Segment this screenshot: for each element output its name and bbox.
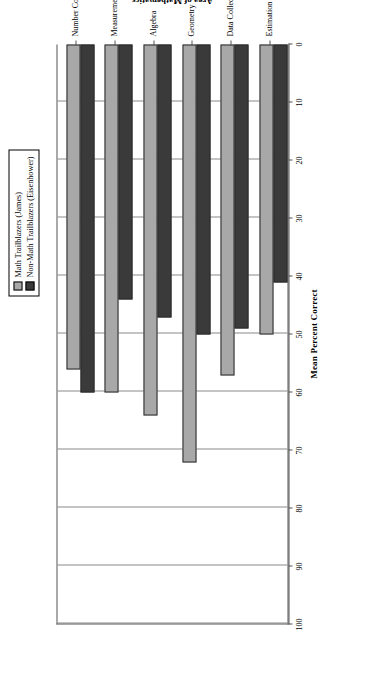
bar-1 <box>80 44 94 392</box>
value-axis-tick-label: 30 <box>294 214 303 222</box>
bar-1 <box>196 44 210 334</box>
value-axis-tick-label: 60 <box>294 388 303 396</box>
legend-item: Math Trailblazers (James) <box>13 156 22 290</box>
value-axis-tick-label: 40 <box>294 272 303 280</box>
value-axis-tick <box>288 43 292 44</box>
bar-1 <box>157 44 171 317</box>
legend-item: Non-Math Trailblazers (Eisenhower) <box>25 156 34 290</box>
legend-label-non-math-trailblazers: Non-Math Trailblazers (Eisenhower) <box>25 156 34 277</box>
value-axis-tick <box>288 333 292 334</box>
bar-0 <box>182 44 196 462</box>
value-axis-tick <box>288 623 292 624</box>
value-axis-tick-label: 90 <box>294 562 303 570</box>
value-axis-tick-label: 80 <box>294 504 303 512</box>
category-axis-title: Area of Mathematics <box>132 0 213 5</box>
value-axis-tick <box>288 565 292 566</box>
bar-group <box>134 44 173 623</box>
category-axis-tick <box>153 40 154 45</box>
category-axis-tick <box>75 40 76 45</box>
value-axis-tick-label: 70 <box>294 446 303 454</box>
bar-group <box>212 44 251 623</box>
bar-0 <box>66 44 80 369</box>
chart-figure: Math Trailblazers (James) Non-Math Trail… <box>0 0 375 684</box>
bar-series-container <box>57 44 287 623</box>
bar-0 <box>220 44 234 375</box>
value-axis-title: Mean Percent Correct <box>308 43 318 624</box>
value-axis-tick-label: 50 <box>294 330 303 338</box>
value-axis-tick <box>288 159 292 160</box>
value-axis-tick <box>288 449 292 450</box>
value-axis-tick-label: 100 <box>294 618 303 630</box>
legend-label-math-trailblazers: Math Trailblazers (James) <box>13 192 22 278</box>
chart-legend: Math Trailblazers (James) Non-Math Trail… <box>8 149 39 296</box>
chart-rotated-canvas: Math Trailblazers (James) Non-Math Trail… <box>0 0 375 684</box>
legend-swatch-non-math-trailblazers <box>25 281 34 290</box>
category-axis-tick <box>269 40 270 45</box>
bar-0 <box>143 44 157 415</box>
category-axis-tick <box>191 40 192 45</box>
value-axis-tick-label: 10 <box>294 98 303 106</box>
bar-1 <box>118 44 132 299</box>
bar-0 <box>259 44 273 334</box>
value-axis-tick <box>288 507 292 508</box>
value-axis-tick <box>288 217 292 218</box>
value-axis-tick <box>288 391 292 392</box>
value-axis-tick <box>288 275 292 276</box>
value-axis-tick <box>288 101 292 102</box>
bar-group <box>57 44 96 623</box>
bar-1 <box>234 44 248 328</box>
category-axis-tick <box>230 40 231 45</box>
bar-0 <box>104 44 118 392</box>
bar-group <box>96 44 135 623</box>
bar-1 <box>273 44 287 282</box>
plot-area <box>56 44 288 624</box>
bar-group <box>250 44 289 623</box>
value-axis-tick-label: 20 <box>294 156 303 164</box>
category-axis-tick <box>114 40 115 45</box>
value-axis-tick-label: 0 <box>294 42 303 46</box>
legend-swatch-math-trailblazers <box>13 281 22 290</box>
bar-group <box>173 44 212 623</box>
